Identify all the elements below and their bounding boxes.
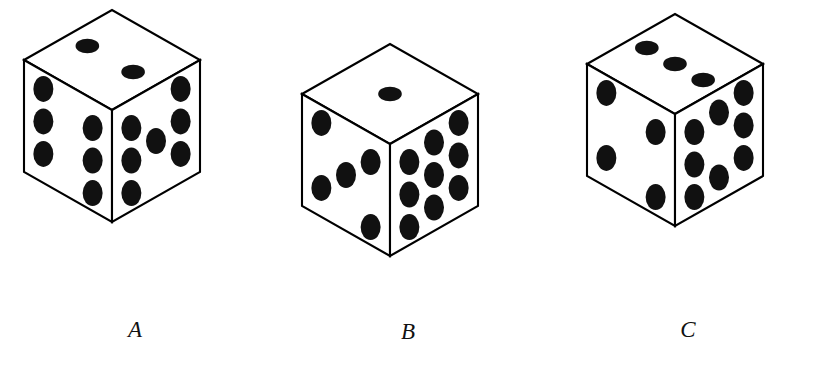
pip <box>449 175 469 201</box>
pip <box>171 141 191 167</box>
pip <box>684 119 704 145</box>
pip <box>171 108 191 134</box>
die-label-c: C <box>668 318 708 341</box>
pip <box>449 142 469 168</box>
pip <box>709 164 729 190</box>
pip <box>121 65 145 80</box>
pip <box>311 175 331 201</box>
pip <box>399 214 419 240</box>
pip <box>734 80 754 106</box>
pip <box>378 87 402 102</box>
die-a <box>22 8 202 224</box>
pip <box>424 130 444 156</box>
pip <box>691 73 715 88</box>
die-b-top-face-pips <box>378 87 402 102</box>
pip <box>336 162 356 188</box>
pip <box>83 148 103 174</box>
pip <box>361 149 381 175</box>
pip <box>734 145 754 171</box>
pip <box>635 41 659 56</box>
pip <box>146 128 166 154</box>
pip <box>361 214 381 240</box>
dice-figure: ABC <box>0 0 814 367</box>
die-label-b: B <box>388 320 428 343</box>
pip <box>76 39 100 54</box>
pip <box>121 148 141 174</box>
pip <box>424 162 444 188</box>
pip <box>83 180 103 206</box>
pip <box>663 57 687 72</box>
pip <box>646 184 666 210</box>
pip <box>424 194 444 220</box>
pip <box>33 141 53 167</box>
pip <box>311 110 331 136</box>
pip <box>734 112 754 138</box>
die-c <box>585 12 765 228</box>
pip <box>33 108 53 134</box>
pip <box>684 184 704 210</box>
pip <box>449 110 469 136</box>
die-b <box>300 42 480 258</box>
pip <box>399 149 419 175</box>
pip <box>121 180 141 206</box>
pip <box>596 80 616 106</box>
pip <box>684 152 704 178</box>
pip <box>171 76 191 102</box>
pip <box>121 115 141 141</box>
pip <box>83 115 103 141</box>
pip <box>709 100 729 126</box>
die-label-a: A <box>115 318 155 341</box>
pip <box>646 119 666 145</box>
pip <box>33 76 53 102</box>
pip <box>399 182 419 208</box>
pip <box>596 145 616 171</box>
